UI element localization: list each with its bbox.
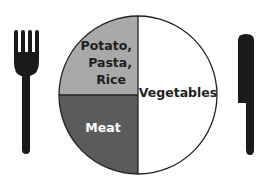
meat-label: Meat — [85, 120, 120, 135]
fork-icon — [14, 30, 39, 154]
vegetables-label: Vegetables — [139, 85, 217, 100]
plate-diagram: Potato, Pasta, Rice Meat Vegetables — [0, 0, 270, 188]
starch-label-line-3: Rice — [96, 72, 126, 87]
starch-label-line-1: Potato, — [81, 38, 132, 53]
knife-icon — [238, 34, 254, 155]
starch-label-line-2: Pasta, — [88, 55, 132, 70]
